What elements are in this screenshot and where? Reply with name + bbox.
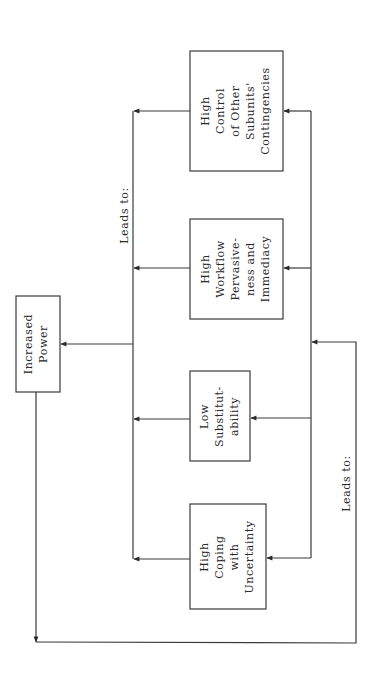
diagram-connectors bbox=[0, 0, 379, 695]
node-low-substitutability: Low Substitut- ability bbox=[197, 372, 244, 462]
node-text: High bbox=[197, 505, 212, 609]
node-text: High bbox=[198, 219, 213, 319]
node-text: High bbox=[198, 51, 213, 171]
node-text: ability bbox=[227, 372, 242, 462]
node-text: Subunits' bbox=[243, 51, 258, 171]
node-text: Substitut- bbox=[212, 372, 227, 462]
node-text: Contingencies bbox=[258, 51, 273, 171]
leads-to-label-bottom: Leads to: bbox=[339, 449, 354, 519]
edge-label: Leads to: bbox=[339, 449, 354, 519]
node-increased-power: Increased Power bbox=[21, 296, 55, 392]
node-text: Low bbox=[197, 372, 212, 462]
node-high-workflow: High Workflow Pervasive- ness and Immedi… bbox=[198, 219, 276, 319]
node-text: with bbox=[227, 505, 242, 609]
node-text: Pervasive- bbox=[228, 219, 243, 319]
node-text: Power bbox=[36, 296, 51, 392]
node-text: Coping bbox=[212, 505, 227, 609]
edge-label: Leads to: bbox=[117, 181, 132, 251]
node-text: Uncertainty bbox=[242, 505, 257, 609]
node-high-coping: High Coping with Uncertainty bbox=[197, 505, 259, 609]
node-high-control: High Control of Other Subunits' Continge… bbox=[198, 51, 276, 171]
node-text: Immediacy bbox=[258, 219, 273, 319]
node-text: of Other bbox=[228, 51, 243, 171]
node-text: ness and bbox=[243, 219, 258, 319]
node-text: Workflow bbox=[213, 219, 228, 319]
node-text: Increased bbox=[21, 296, 36, 392]
node-text: Control bbox=[213, 51, 228, 171]
leads-to-label-top: Leads to: bbox=[117, 181, 132, 251]
